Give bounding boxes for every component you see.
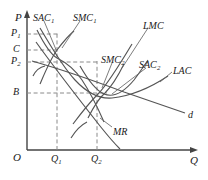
curve-label-smc1: SMC1 xyxy=(73,13,97,24)
y-tick-p1: P1 xyxy=(11,28,21,39)
x-tick-q2-sub: 2 xyxy=(98,158,101,165)
curve-label-mr: MR xyxy=(113,127,128,138)
curve-label-lmc-text: LMC xyxy=(143,20,164,31)
smc1-lower-tail xyxy=(33,66,45,76)
x-axis-label: Q xyxy=(190,155,198,166)
y-tick-p2-sub: 2 xyxy=(17,60,20,67)
y-tick-b-text: B xyxy=(13,86,19,97)
y-axis-arrowhead xyxy=(24,10,30,18)
leader-sac1 xyxy=(44,21,57,52)
y-tick-c-text: C xyxy=(13,43,20,54)
x-tick-q1: Q1 xyxy=(51,154,62,165)
x-tick-q2: Q2 xyxy=(91,154,102,165)
sac1-curve xyxy=(37,30,104,122)
curve-label-smc2-text: SMC xyxy=(101,54,121,65)
curve-label-sac1-text: SAC xyxy=(33,12,51,23)
y-axis-label: P xyxy=(15,12,22,23)
x-tick-q1-sub: 1 xyxy=(58,158,61,165)
curve-label-sac2-text: SAC xyxy=(139,59,157,70)
leader-lac xyxy=(160,72,172,82)
axis-group xyxy=(24,10,198,153)
y-tick-c: C xyxy=(13,44,20,55)
curve-label-smc2-sub: 2 xyxy=(121,59,124,66)
curve-label-d: d xyxy=(188,110,193,121)
curve-label-sac2-sub: 2 xyxy=(157,64,160,71)
economics-diagram: P Q O P1 C P2 B Q1 Q2 SAC1 SMC1 LMC SMC2… xyxy=(0,0,208,180)
y-tick-p1-sub: 1 xyxy=(17,32,20,39)
leader-mr xyxy=(100,118,112,127)
diagram-canvas xyxy=(0,0,208,180)
leader-lines xyxy=(44,21,172,127)
curve-label-smc1-sub: 1 xyxy=(93,17,96,24)
curve-label-smc2: SMC2 xyxy=(101,55,125,66)
demand-curve xyxy=(32,61,185,113)
curve-label-d-text: d xyxy=(188,109,193,120)
curve-label-sac1: SAC1 xyxy=(33,13,54,24)
smc2-lower-tail xyxy=(71,122,87,138)
curve-label-sac2: SAC2 xyxy=(139,60,160,71)
y-tick-b: B xyxy=(13,87,19,98)
guide-lines xyxy=(27,33,107,150)
curve-label-lmc: LMC xyxy=(143,21,164,32)
leader-smc2 xyxy=(102,63,112,88)
leader-smc1 xyxy=(62,21,80,48)
curve-label-smc1-text: SMC xyxy=(73,12,93,23)
smc2-curve xyxy=(88,64,124,118)
curve-label-mr-text: MR xyxy=(113,126,127,137)
curve-label-lac-text: LAC xyxy=(173,65,191,76)
x-axis-arrowhead xyxy=(190,147,198,153)
origin-label: O xyxy=(13,152,21,163)
y-tick-p2: P2 xyxy=(11,56,21,67)
curve-label-sac1-sub: 1 xyxy=(51,17,54,24)
curve-label-lac: LAC xyxy=(173,66,191,77)
